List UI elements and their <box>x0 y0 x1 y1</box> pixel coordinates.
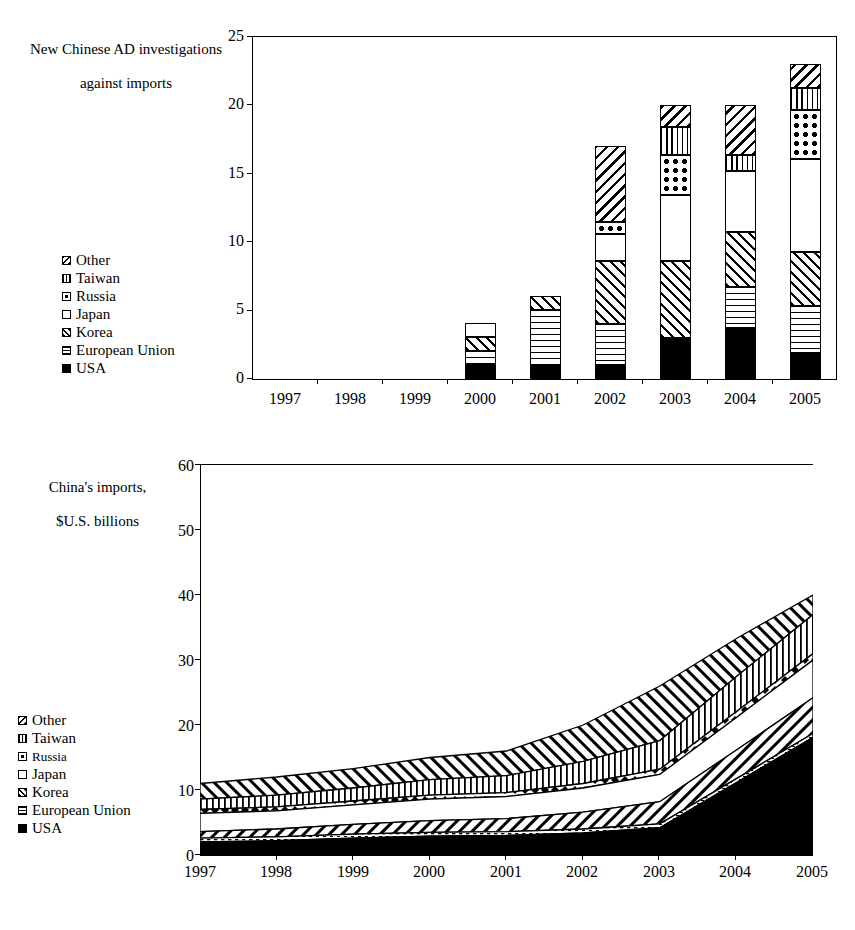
bar-segment-usa <box>465 365 496 379</box>
top-chart-bar-1999[interactable] <box>465 323 496 379</box>
top-chart-ytickmark-20 <box>247 104 252 105</box>
top-chart-y-axis-title-line1: New Chinese AD investigations <box>30 41 222 57</box>
top-chart-xtick-2004: 2004 <box>710 391 770 407</box>
bar-segment-korea <box>790 252 821 306</box>
legend-item-korea[interactable]: Korea <box>62 324 175 341</box>
bar-segment-european-union <box>790 306 821 353</box>
bottom-chart-xtick-2004: 2004 <box>705 864 765 880</box>
legend-item-japan[interactable]: Japan <box>62 306 175 323</box>
legend-item-other[interactable]: Other <box>62 252 175 269</box>
top-chart-xtick-1998: 1998 <box>320 391 380 407</box>
bar-segment-european-union <box>595 324 626 365</box>
bar-segment-russia <box>660 155 691 195</box>
top-chart-xtickmark <box>772 379 773 384</box>
japan-swatch-icon <box>62 310 71 319</box>
bottom-chart-xtick-2002: 2002 <box>552 864 612 880</box>
legend-item-japan[interactable]: Japan <box>18 766 131 783</box>
bottom-chart-legend: Other Taiwan Russia Japan Korea European… <box>18 712 131 838</box>
bottom-chart-xtickmark <box>505 855 506 860</box>
top-chart-xtick-1999: 1999 <box>385 391 445 407</box>
bottom-chart-y-axis-title: China's imports, $U.S. billions <box>10 462 185 530</box>
top-chart-xtick-2001: 2001 <box>515 391 575 407</box>
bar-segment-other <box>725 105 756 155</box>
bottom-chart-xtick-2000: 2000 <box>399 864 459 880</box>
legend-item-european-union[interactable]: European Union <box>18 802 131 819</box>
legend-item-korea[interactable]: Korea <box>18 784 131 801</box>
european-union-swatch-icon <box>18 806 27 815</box>
legend-label: Korea <box>76 325 113 340</box>
top-chart-xtick-2000: 2000 <box>450 391 510 407</box>
bar-segment-other <box>595 146 626 222</box>
legend-item-taiwan[interactable]: Taiwan <box>18 730 131 747</box>
usa-swatch-icon <box>18 824 27 833</box>
legend-item-taiwan[interactable]: Taiwan <box>62 270 175 287</box>
top-chart-xtickmark <box>512 379 513 384</box>
legend-label: European Union <box>76 343 175 358</box>
top-chart-xtickmark <box>447 379 448 384</box>
bar-segment-korea <box>660 261 691 338</box>
bottom-chart-area-series <box>200 465 813 855</box>
bar-segment-korea <box>465 337 496 351</box>
other-swatch-icon <box>62 256 71 265</box>
other-swatch-icon <box>18 716 27 725</box>
japan-swatch-icon <box>18 770 27 779</box>
legend-item-usa[interactable]: USA <box>18 820 131 837</box>
bottom-chart-ytick-10: 10 <box>160 783 194 799</box>
bar-segment-european-union <box>465 351 496 365</box>
top-chart-ytickmark-25 <box>247 36 252 37</box>
korea-swatch-icon <box>18 788 27 797</box>
top-chart-bar-2001[interactable] <box>595 146 626 379</box>
top-chart-bar-2004[interactable] <box>790 64 821 379</box>
bottom-chart-xtick-2001: 2001 <box>476 864 536 880</box>
top-chart-bar-2002[interactable] <box>660 105 691 379</box>
top-chart-ytickmark-5 <box>247 310 252 311</box>
bar-segment-european-union <box>530 310 561 365</box>
bar-segment-russia <box>595 222 626 234</box>
bottom-chart-y-axis-title-line1: China's imports, <box>49 479 147 495</box>
legend-label: Russia <box>32 749 67 764</box>
legend-item-other[interactable]: Other <box>18 712 131 729</box>
top-chart-xtickmark <box>707 379 708 384</box>
top-chart-ytickmark-10 <box>247 241 252 242</box>
russia-swatch-icon <box>18 752 27 761</box>
bar-segment-korea <box>595 261 626 324</box>
legend-label: Other <box>32 713 66 728</box>
bar-segment-taiwan <box>660 127 691 155</box>
bar-segment-usa <box>660 338 691 379</box>
legend-label: European Union <box>32 803 131 818</box>
top-chart-bar-2000[interactable] <box>530 296 561 379</box>
top-chart-ytickmark-15 <box>247 173 252 174</box>
top-chart-bar-2003[interactable] <box>725 105 756 379</box>
bottom-chart-xtick-2005: 2005 <box>782 864 842 880</box>
legend-item-russia[interactable]: Russia <box>18 748 131 765</box>
bottom-chart-xtickmark <box>582 855 583 860</box>
top-chart-xtick-2002: 2002 <box>580 391 640 407</box>
bottom-chart-ytick-20: 20 <box>160 718 194 734</box>
russia-swatch-icon <box>62 292 71 301</box>
legend-item-european-union[interactable]: European Union <box>62 342 175 359</box>
bottom-chart-xtick-1999: 1999 <box>323 864 383 880</box>
bottom-chart-xtickmark <box>658 855 659 860</box>
bottom-chart-ytick-60: 60 <box>160 458 194 474</box>
bar-segment-european-union <box>725 287 756 328</box>
bar-segment-usa <box>725 328 756 379</box>
bar-segment-other <box>660 105 691 127</box>
bar-segment-japan <box>465 323 496 337</box>
legend-label: Japan <box>76 307 110 322</box>
top-chart-xtickmark <box>317 379 318 384</box>
top-chart-xtick-1997: 1997 <box>255 391 315 407</box>
european-union-swatch-icon <box>62 346 71 355</box>
bar-segment-usa <box>790 353 821 379</box>
legend-item-russia[interactable]: Russia <box>62 288 175 305</box>
usa-swatch-icon <box>62 364 71 373</box>
bar-segment-usa <box>595 365 626 379</box>
legend-label: Korea <box>32 785 69 800</box>
bar-segment-russia <box>790 110 821 159</box>
legend-item-usa[interactable]: USA <box>62 360 175 377</box>
bar-segment-usa <box>530 365 561 379</box>
bottom-chart-xtickmark <box>352 855 353 860</box>
bar-segment-japan <box>725 171 756 232</box>
legend-label: USA <box>76 361 106 376</box>
top-chart-ytick-15: 15 <box>210 165 244 181</box>
top-chart-ytick-10: 10 <box>210 233 244 249</box>
